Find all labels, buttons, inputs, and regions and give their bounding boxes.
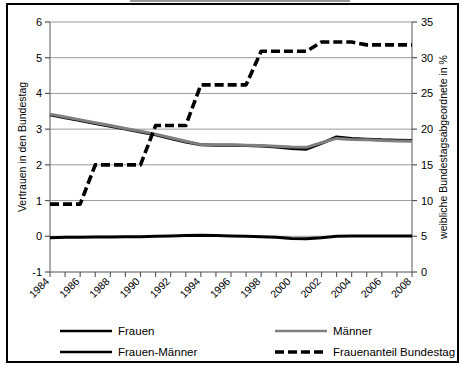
x-tick-label: 1994: [177, 275, 202, 300]
x-tick-label: 2000: [268, 275, 293, 300]
legend-label-frauen-m-nner: Frauen-Männer: [118, 346, 197, 358]
right-tick-label: 30: [421, 52, 433, 64]
series-line-m-nner: [50, 114, 412, 147]
left-axis-title: Vertrauen in den Bundestag: [16, 82, 28, 212]
x-tick-label: 1996: [207, 275, 232, 300]
right-tick-label: 5: [421, 230, 427, 242]
left-tick-label: 5: [36, 52, 42, 64]
left-tick-label: 0: [36, 230, 42, 242]
right-tick-label: 20: [421, 123, 433, 135]
chart-canvas: -10123456 05101520253035 198419861988199…: [0, 0, 466, 370]
x-tick-label: 2002: [298, 275, 323, 300]
x-tick-label: 2008: [388, 275, 413, 300]
data-series-group: [50, 42, 412, 239]
legend-label-frauenanteil-bundestag: Frauenanteil Bundestag: [333, 346, 455, 358]
right-tick-label: 25: [421, 87, 433, 99]
right-axis-ticks: 05101520253035: [412, 16, 433, 278]
x-axis-ticks: 1984198619881990199219941996199820002002…: [26, 272, 413, 300]
x-tick-label: 2004: [328, 275, 353, 300]
legend-label-frauen: Frauen: [118, 325, 154, 337]
x-tick-label: 1988: [87, 275, 112, 300]
left-tick-label: 6: [36, 16, 42, 28]
chart-figure: -10123456 05101520253035 198419861988199…: [0, 0, 466, 370]
right-tick-label: 0: [421, 266, 427, 278]
left-tick-label: 1: [36, 195, 42, 207]
left-tick-label: 2: [36, 159, 42, 171]
x-tick-label: 1986: [57, 275, 82, 300]
left-axis-ticks: -10123456: [32, 16, 50, 278]
right-tick-label: 35: [421, 16, 433, 28]
x-tick-label: 1984: [26, 275, 51, 300]
right-tick-label: 10: [421, 195, 433, 207]
legend-label-m-nner: Männer: [333, 325, 372, 337]
left-tick-label: 4: [36, 87, 42, 99]
x-tick-label: 2006: [358, 275, 383, 300]
left-tick-label: 3: [36, 123, 42, 135]
x-tick-label: 1990: [117, 275, 142, 300]
gridlines-group: [50, 22, 412, 236]
axis-titles-group: Vertrauen in den Bundestagweibliche Bund…: [16, 55, 449, 240]
right-axis-title: weibliche Bundestagsabgeordnete in %: [437, 55, 449, 240]
legend-group: FrauenMännerFrauen-MännerFrauenanteil Bu…: [60, 325, 455, 358]
x-tick-label: 1992: [147, 275, 172, 300]
x-tick-label: 1998: [238, 275, 263, 300]
series-line-frauen-m-nner: [50, 235, 412, 239]
right-tick-label: 15: [421, 159, 433, 171]
